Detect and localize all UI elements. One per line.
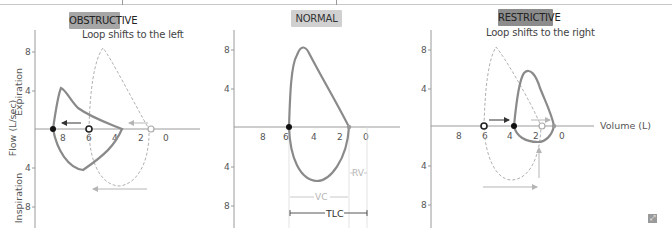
flow-volume-diagram: 8 4 4 8 8 6 4 2 0 Expiration Flow (L/sec… [0,0,672,243]
x-axis-label: Volume (L) [600,120,651,131]
start-point [286,124,292,130]
start-point [50,126,56,132]
normal-reference-loop [484,47,541,180]
reference-end-point [539,123,545,129]
inspiration-label: Inspiration [13,173,24,223]
normal-loop [289,47,349,181]
y-tick-label: 8 [224,45,230,55]
x-tick-label: 8 [260,132,266,142]
end-point [552,124,556,128]
x-tick-label: 6 [283,132,289,142]
expand-icon[interactable]: ⤢ [648,214,657,223]
normal-chart: 8 4 4 8 8 6 4 2 0 VC RV TLC [224,30,400,228]
normal-reference-loop [89,48,149,186]
y-tick-label: 4 [421,84,427,94]
start-point [511,123,517,129]
x-tick-label: 0 [163,133,169,143]
y-tick-label: 4 [25,86,31,96]
y-tick-label: 4 [224,162,230,172]
x-tick-label: 8 [60,133,66,143]
y-tick-label: 4 [421,161,427,171]
x-tick-label: 4 [507,131,513,141]
tlc-label: TLC [325,208,344,219]
restrictive-chart: 8 4 4 8 8 6 4 2 0 Volume (L) [421,30,651,228]
y-tick-label: 8 [224,201,230,211]
obstructive-chart: 8 4 4 8 8 6 4 2 0 Expiration Flow (L/sec… [7,30,200,228]
end-point [347,125,351,129]
vc-label: VC [315,192,327,202]
x-tick-label: 0 [559,131,565,141]
y-tick-label: 4 [25,163,31,173]
x-tick-label: 4 [311,132,317,142]
y-tick-label: 8 [421,200,427,210]
y-tick-label: 8 [421,45,427,55]
reference-start-point [481,123,487,129]
y-tick-label: 8 [25,202,31,212]
x-tick-label: 2 [138,133,144,143]
reference-end-point [148,126,154,132]
x-tick-label: 8 [456,131,462,141]
x-tick-label: 0 [363,132,369,142]
y-tick-label: 4 [224,84,230,94]
y-axis-label: Flow (L/sec) [7,100,18,157]
x-tick-label: 2 [337,132,343,142]
rv-label: RV [352,168,365,178]
reference-start-point [86,126,92,132]
x-tick-label: 2 [533,131,539,141]
y-tick-label: 8 [25,47,31,57]
